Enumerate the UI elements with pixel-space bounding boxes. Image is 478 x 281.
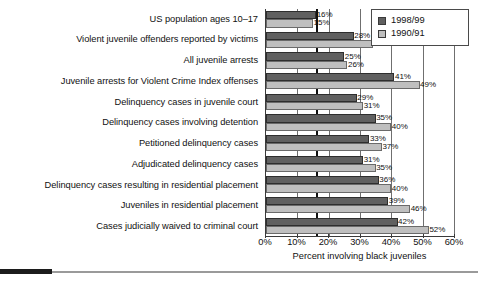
bar-value-label: 35% [376,164,392,172]
bar: 26% [266,61,347,69]
bar: 33% [266,135,369,143]
category-label: Petitioned delinquency cases [0,133,262,154]
category-label: US population ages 10–17 [0,9,262,30]
x-axis-ticks: 0%10%20%30%40%50%60% [265,238,454,250]
x-tick-label: 10% [287,238,306,247]
bar: 15% [266,19,313,27]
bar: 52% [266,226,429,234]
bar-group: 41%49% [266,71,454,92]
category-label: Cases judicially waived to criminal cour… [0,216,262,237]
legend-item-1990-91: 1990/91 [378,27,462,40]
bar-row: 37% [266,143,454,151]
x-tick-label: 40% [382,238,401,247]
bar: 31% [266,102,363,110]
bar: 35% [266,164,376,172]
bar: 35% [266,114,376,122]
bar-row: 49% [266,81,454,89]
x-tick-label: 60% [445,238,464,247]
legend-label: 1990/91 [391,29,425,38]
category-axis-labels: US population ages 10–17Violent juvenile… [0,9,262,237]
bar-value-label: 49% [420,81,436,89]
bar-value-label: 41% [395,73,411,81]
bar-group: 42%52% [266,215,454,236]
bar-row: 52% [266,226,454,234]
legend-item-1998-99: 1998/99 [378,14,462,27]
bar: 41% [266,73,394,81]
bar-group: 35%40% [266,112,454,133]
bar: 40% [266,123,391,131]
bar-row: 26% [266,61,454,69]
bar-row: 35% [266,164,454,172]
category-label: Adjudicated delinquency cases [0,154,262,175]
bar-value-label: 39% [389,197,405,205]
bar: 16% [266,11,316,19]
bar-value-label: 28% [354,32,370,40]
bar: 42% [266,218,398,226]
category-label: Delinquency cases resulting in residenti… [0,175,262,196]
bar-value-label: 26% [348,61,364,69]
bar-row: 36% [266,176,454,184]
bar-value-label: 40% [392,185,408,193]
bar: 34% [266,40,373,48]
category-label: Delinquency cases involving detention [0,113,262,134]
category-label: Juvenile arrests for Violent Crime Index… [0,71,262,92]
bar-value-label: 40% [392,123,408,131]
bar-row: 31% [266,102,454,110]
bar-group: 25%26% [266,50,454,71]
legend-swatch-icon [378,30,386,38]
bar-row: 33% [266,135,454,143]
bar-value-label: 37% [382,143,398,151]
x-tick-label: 20% [319,238,338,247]
bar-row: 40% [266,123,454,131]
footer-accent-bar [0,269,52,274]
legend-label: 1998/99 [391,16,425,25]
chart-legend: 1998/99 1990/91 [371,9,469,46]
bar: 39% [266,197,388,205]
bar-row: 35% [266,114,454,122]
bar-group: 29%31% [266,92,454,113]
bar: 46% [266,205,410,213]
category-label: Delinquency cases in juvenile court [0,92,262,113]
category-label: All juvenile arrests [0,50,262,71]
bar: 40% [266,184,391,192]
category-label: Violent juvenile offenders reported by v… [0,30,262,51]
bar: 25% [266,52,344,60]
chart-figure: US population ages 10–17Violent juvenile… [0,0,478,281]
bar: 28% [266,32,354,40]
bar-row: 29% [266,94,454,102]
bar-group: 36%40% [266,174,454,195]
x-tick-label: 50% [413,238,432,247]
bar: 31% [266,156,363,164]
bar-row: 46% [266,205,454,213]
bar-group: 39%46% [266,195,454,216]
bar-value-label: 35% [376,114,392,122]
bar-row: 42% [266,218,454,226]
bar-value-label: 31% [364,102,380,110]
legend-swatch-icon [378,17,386,25]
category-label: Juveniles in residential placement [0,196,262,217]
x-tick-label: 30% [350,238,369,247]
x-axis-title: Percent involving black juveniles [265,252,454,261]
bar-value-label: 42% [398,218,414,226]
bar: 36% [266,176,379,184]
x-tick-label: 0% [258,238,271,247]
bar: 49% [266,81,420,89]
bar-group: 31%35% [266,153,454,174]
footer-divider [0,271,478,273]
bar-row: 40% [266,184,454,192]
bar-row: 31% [266,156,454,164]
bar-value-label: 46% [411,205,427,213]
bar-value-label: 15% [314,19,330,27]
bar-group: 33%37% [266,133,454,154]
bar: 37% [266,143,382,151]
bar: 29% [266,94,357,102]
bar-value-label: 52% [429,226,445,234]
